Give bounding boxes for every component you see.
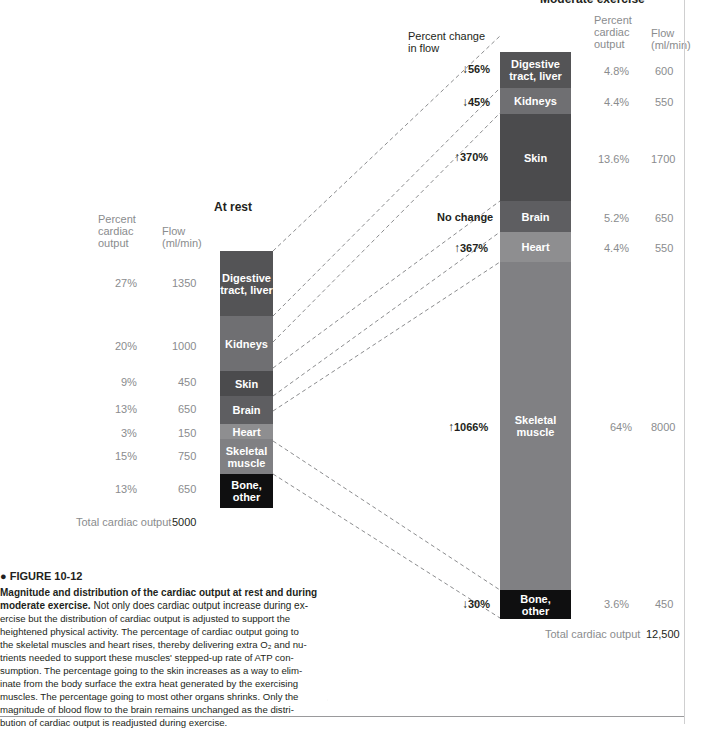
change-value: 1066%: [454, 421, 488, 433]
segment-label: Brain: [521, 211, 549, 223]
exercise-segment-heart: Heart: [500, 232, 571, 262]
exercise-flow: 450: [655, 598, 673, 610]
rest-segment-bone-other: Bone,other: [220, 474, 273, 508]
segment-label: other: [520, 605, 551, 617]
rest-flow: 1350: [172, 277, 196, 289]
segment-label: Digestive: [509, 58, 562, 70]
rest-flow: 1000: [172, 340, 196, 352]
exercise-percent: 3.6%: [604, 598, 629, 610]
change-skin: ↑370%: [454, 150, 488, 164]
rest-flow: 750: [178, 450, 196, 462]
exercise-percent-header-line: cardiac: [594, 26, 632, 38]
rest-title: At rest: [214, 200, 252, 214]
rest-total-value: 5000: [172, 516, 196, 528]
rest-percent-header-line: output: [98, 237, 136, 249]
exercise-percent: 5.2%: [604, 212, 629, 224]
caption-line: trients needed to support these muscles'…: [0, 651, 430, 664]
segment-label: Kidneys: [514, 95, 557, 107]
rest-flow: 650: [178, 483, 196, 495]
exercise-percent: 64%: [610, 421, 632, 433]
exercise-flow: 8000: [651, 421, 675, 433]
figure-title-line: Magnitude and distribution of the cardia…: [0, 586, 430, 599]
segment-label: Kidneys: [225, 338, 268, 350]
change-value: 56%: [468, 63, 490, 75]
change-value: No change: [437, 211, 493, 223]
exercise-percent: 4.8%: [604, 65, 629, 77]
exercise-segment-skeletal-muscle: Skeletalmuscle: [500, 262, 571, 590]
change-brain: No change: [437, 211, 493, 223]
exercise-segment-digestive: Digestivetract, liver: [500, 52, 571, 88]
segment-label: tract, liver: [509, 70, 562, 82]
exercise-percent-header-line: output: [594, 38, 632, 50]
page-margin-rule: [684, 0, 685, 724]
change-skeletal-muscle: ↑1066%: [448, 420, 488, 434]
rest-segment-digestive: Digestivetract, liver: [220, 251, 273, 316]
rest-percent: 27%: [115, 277, 137, 289]
caption-line: the skeletal muscles and heart rises, th…: [0, 638, 430, 651]
rest-flow-header-line: (ml/min): [162, 237, 202, 249]
exercise-percent-header: Percent cardiac output: [594, 14, 632, 50]
exercise-segment-brain: Brain: [500, 201, 571, 232]
segment-label: muscle: [226, 457, 268, 469]
segment-label: Skin: [235, 378, 258, 390]
segment-label: Skeletal: [226, 445, 268, 457]
rest-flow-header-line: Flow: [162, 225, 202, 237]
change-digestive: ↓56%: [462, 62, 490, 76]
rest-percent: 20%: [115, 340, 137, 352]
change-value: 370%: [460, 151, 488, 163]
exercise-total-value: 12,500: [646, 628, 680, 640]
segment-label: Skeletal: [515, 414, 557, 426]
exercise-change-header-line: in flow: [408, 42, 485, 54]
segment-label: muscle: [515, 426, 557, 438]
exercise-change-header-line: Percent change: [408, 30, 485, 42]
exercise-percent: 13.6%: [598, 153, 629, 165]
change-heart: ↑367%: [454, 241, 488, 255]
segment-label: Digestive: [220, 272, 273, 284]
exercise-percent: 4.4%: [604, 96, 629, 108]
segment-label: Heart: [521, 241, 549, 253]
figure-caption: Magnitude and distribution of the cardia…: [0, 586, 430, 729]
segment-label: Bone,: [520, 593, 551, 605]
exercise-flow: 1700: [651, 153, 675, 165]
rest-percent-header: Percent cardiac output: [98, 213, 136, 249]
caption-line: inate from the body surface the extra he…: [0, 677, 430, 690]
caption-line: Not only does cardiac output increase du…: [91, 600, 308, 611]
caption-line: sumption. The percentage going to the sk…: [0, 664, 430, 677]
exercise-flow: 550: [655, 96, 673, 108]
rest-segment-skin: Skin: [220, 371, 273, 396]
rest-flow: 650: [178, 403, 196, 415]
rest-segment-skeletal-muscle: Skeletalmuscle: [220, 439, 273, 474]
caption-line: ercise but the distribution of cardiac o…: [0, 612, 430, 625]
segment-label: other: [231, 491, 262, 503]
figure-title: Magnitude and distribution of the cardia…: [0, 586, 430, 612]
exercise-flow: 650: [655, 212, 673, 224]
exercise-change-header: Percent change in flow: [408, 30, 485, 54]
change-value: 367%: [460, 242, 488, 254]
rest-percent: 15%: [115, 450, 137, 462]
rest-percent-header-line: cardiac: [98, 225, 136, 237]
rest-flow: 450: [178, 376, 196, 388]
rest-segment-brain: Brain: [220, 396, 273, 424]
segment-label: Heart: [232, 426, 260, 438]
rest-percent: 13%: [115, 403, 137, 415]
rest-segment-kidneys: Kidneys: [220, 316, 273, 371]
segment-label: Brain: [232, 404, 260, 416]
rest-total-label: Total cardiac output: [76, 516, 171, 528]
exercise-total-label: Total cardiac output: [545, 628, 640, 640]
change-kidneys: ↓45%: [462, 95, 490, 109]
figure-label-text: FIGURE 10-12: [10, 570, 83, 582]
rest-flow-header: Flow (ml/min): [162, 225, 202, 249]
exercise-segment-bone-other: Bone,other: [500, 590, 571, 619]
caption-line: heightened physical activity. The percen…: [0, 625, 430, 638]
caption-line: magnitude of blood flow to the brain rem…: [0, 703, 430, 716]
exercise-percent: 4.4%: [604, 242, 629, 254]
segment-label: tract, liver: [220, 284, 273, 296]
rest-percent: 13%: [115, 483, 137, 495]
rest-percent: 9%: [121, 376, 137, 388]
exercise-segment-skin: Skin: [500, 114, 571, 201]
rest-flow: 150: [178, 427, 196, 439]
rest-percent-header-line: Percent: [98, 213, 136, 225]
change-value: 30%: [468, 598, 490, 610]
caption-line: muscles. The percentage going to most ot…: [0, 690, 430, 703]
figure-title-line: moderate exercise.: [0, 600, 91, 611]
